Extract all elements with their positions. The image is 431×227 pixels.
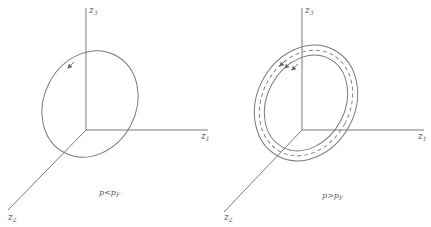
z3-label: z3	[88, 5, 98, 16]
direction-arrow-icon	[69, 62, 74, 67]
right-panel: z3 z1 z2 p>pF	[223, 5, 427, 223]
center-orbit-ellipse	[241, 34, 370, 172]
orbit-ellipse	[24, 34, 157, 174]
right-caption: p>pF	[322, 191, 344, 201]
diagram-canvas: z3 z1 z2 p<pF z3 z1 z2 p>pF	[0, 0, 431, 227]
z1-label: z1	[200, 131, 210, 142]
left-caption: p<pF	[99, 188, 121, 198]
z2-label: z2	[223, 212, 233, 223]
z3-label: z3	[304, 5, 314, 16]
direction-arrow-icon	[293, 64, 298, 69]
direction-arrow-icon	[281, 60, 286, 65]
direction-arrow-icon	[286, 62, 291, 67]
z1-label: z1	[417, 131, 427, 142]
z2-label: z2	[7, 212, 17, 223]
z2-axis	[8, 130, 86, 210]
outer-orbit-ellipse	[235, 27, 378, 179]
left-panel: z3 z1 z2 p<pF	[7, 5, 210, 223]
